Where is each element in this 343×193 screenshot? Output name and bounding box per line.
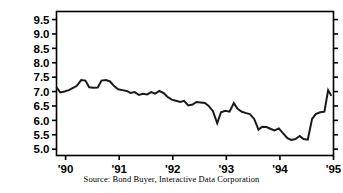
y-tick-label: 9.5 (34, 14, 51, 26)
y-tick-label: 7.0 (34, 86, 50, 98)
source-caption: Source: Bond Buyer, Interactive Data Cor… (0, 174, 343, 184)
line-chart: 5.05.56.06.57.07.58.08.59.09.5 '90'91'92… (0, 0, 343, 193)
y-tick-label: 5.0 (34, 143, 50, 155)
y-tick-label: 7.5 (34, 71, 51, 83)
y-tick-label: 6.0 (34, 115, 50, 127)
x-tick-label: '91 (111, 163, 127, 175)
x-tick-label: '93 (219, 163, 235, 175)
y-tick-label: 9.0 (34, 28, 50, 40)
x-tick-label: '95 (326, 163, 342, 175)
y-tick-label: 8.0 (34, 57, 50, 69)
x-tick-label: '94 (272, 163, 288, 175)
y-tick-label: 6.5 (34, 100, 51, 112)
y-tick-label: 8.5 (34, 43, 51, 55)
y-tick-label: 5.5 (34, 129, 51, 141)
x-tick-label: '90 (58, 163, 74, 175)
x-tick-label: '92 (165, 163, 181, 175)
chart-figure: 5.05.56.06.57.07.58.08.59.09.5 '90'91'92… (0, 0, 343, 193)
